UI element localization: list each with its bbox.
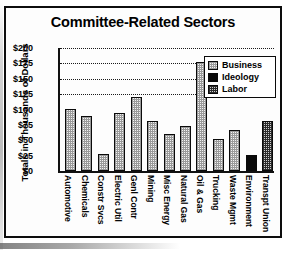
x-category-slot: Automotive bbox=[60, 175, 76, 241]
x-category-slot: Transpt Union bbox=[258, 175, 274, 241]
x-category-slot: Trucking bbox=[208, 175, 224, 241]
y-tick-label: $175 bbox=[0, 58, 33, 68]
x-tick-label: Trucking bbox=[211, 175, 221, 210]
x-tick-label: Natural Gas bbox=[179, 175, 189, 223]
chart-frame: Committee-Related Sectors Totals in Thou… bbox=[4, 6, 282, 238]
x-category-slot: Misc Energy bbox=[159, 175, 175, 241]
bar bbox=[229, 130, 240, 171]
x-tick-label: Environment bbox=[244, 175, 254, 227]
y-tick-label: $100 bbox=[0, 105, 33, 115]
chart-title: Committee-Related Sectors bbox=[6, 14, 280, 30]
bar bbox=[180, 126, 191, 171]
x-tick-label: Mining bbox=[146, 175, 156, 202]
bar bbox=[98, 154, 109, 172]
bar-slot bbox=[161, 46, 177, 171]
y-tick-label: $50 bbox=[0, 135, 33, 145]
x-category-slot: Chemicals bbox=[76, 175, 92, 241]
x-tick-label: Oil & Gas bbox=[195, 175, 205, 213]
legend-item: Business bbox=[208, 59, 272, 71]
legend-swatch-icon bbox=[208, 61, 218, 70]
y-tick-label: $200 bbox=[0, 43, 33, 53]
bar-slot bbox=[144, 46, 160, 171]
legend-swatch-icon bbox=[208, 85, 218, 94]
bar bbox=[213, 139, 224, 172]
x-category-slot: Environment bbox=[241, 175, 257, 241]
x-category-slot: Mining bbox=[142, 175, 158, 241]
x-tick-label: Misc Energy bbox=[162, 175, 172, 225]
bar bbox=[81, 116, 92, 171]
y-axis-title: Totals in Thousands of Dollars bbox=[19, 52, 30, 182]
x-tick-label: Genl Contr bbox=[129, 175, 139, 219]
y-tick-label: $150 bbox=[0, 74, 33, 84]
legend-label: Labor bbox=[222, 84, 247, 94]
x-category-slot: Genl Contr bbox=[126, 175, 142, 241]
y-tick-label: $125 bbox=[0, 89, 33, 99]
x-category-slot: Constr Svcs bbox=[93, 175, 109, 241]
bar bbox=[131, 97, 142, 171]
bar-slot bbox=[78, 46, 94, 171]
legend-item: Ideology bbox=[208, 71, 272, 83]
bar-slot bbox=[111, 46, 127, 171]
x-category-slot: Waste Mgmt bbox=[225, 175, 241, 241]
legend-swatch-icon bbox=[208, 73, 218, 82]
x-category-slot: Electric Util bbox=[109, 175, 125, 241]
bar bbox=[246, 155, 257, 171]
x-axis-category-labels: AutomotiveChemicalsConstr SvcsElectric U… bbox=[60, 175, 274, 241]
bar-slot bbox=[95, 46, 111, 171]
legend-label: Ideology bbox=[222, 72, 259, 82]
x-tick-label: Transpt Union bbox=[261, 175, 271, 232]
x-tick-label: Waste Mgmt bbox=[228, 175, 238, 225]
x-tick-label: Electric Util bbox=[113, 175, 123, 222]
bar-slot bbox=[128, 46, 144, 171]
x-tick-label: Constr Svcs bbox=[96, 175, 106, 225]
legend-label: Business bbox=[222, 60, 262, 70]
scan-smudge-artifact bbox=[0, 243, 180, 249]
bar-slot bbox=[62, 46, 78, 171]
bar bbox=[114, 113, 125, 171]
y-tick-label: $75 bbox=[0, 120, 33, 130]
legend-item: Labor bbox=[208, 83, 272, 95]
y-tick-label: $0 bbox=[0, 166, 33, 176]
y-tick-label: $25 bbox=[0, 151, 33, 161]
chart-page: Committee-Related Sectors Totals in Thou… bbox=[0, 0, 290, 255]
x-category-slot: Oil & Gas bbox=[192, 175, 208, 241]
x-tick-label: Automotive bbox=[63, 175, 73, 222]
bar bbox=[164, 134, 175, 172]
x-category-slot: Natural Gas bbox=[175, 175, 191, 241]
bar bbox=[147, 121, 158, 171]
bar bbox=[65, 109, 76, 172]
bar-slot bbox=[177, 46, 193, 171]
x-tick-label: Chemicals bbox=[80, 175, 90, 218]
chart-legend: BusinessIdeologyLabor bbox=[204, 56, 276, 98]
bar bbox=[262, 121, 273, 171]
